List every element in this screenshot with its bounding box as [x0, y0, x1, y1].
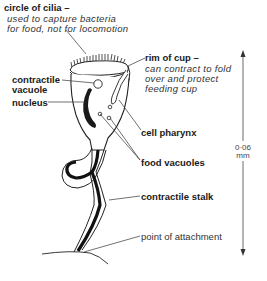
label-point-of-attachment: point of attachment — [141, 232, 222, 242]
scale-arrow-down-icon — [241, 249, 246, 256]
label-nucleus: nucleus — [12, 98, 48, 108]
label-contractile-vacuole-2: vacuole — [12, 85, 47, 95]
scale-arrow-up-icon — [241, 50, 246, 57]
food-vacuole — [108, 105, 112, 109]
label-cell-pharynx: cell pharynx — [141, 128, 196, 138]
label-cilia-desc-2: for food, not for locomotion — [7, 24, 128, 34]
label-rim-title: rim of cup – — [145, 53, 199, 63]
stalk-myoneme — [67, 150, 100, 251]
peristome-disc — [70, 61, 128, 75]
attachment-surface — [42, 252, 108, 264]
label-cilia-title: circle of cilia – — [4, 3, 69, 13]
label-contractile-stalk: contractile stalk — [141, 192, 213, 202]
label-food-vacuoles: food vacuoles — [141, 158, 205, 168]
vorticella-drawing — [0, 0, 267, 281]
contractile-vacuole — [94, 80, 102, 88]
scale-unit: mm — [232, 151, 254, 161]
label-rim-desc-3: feeding cup — [145, 84, 197, 94]
